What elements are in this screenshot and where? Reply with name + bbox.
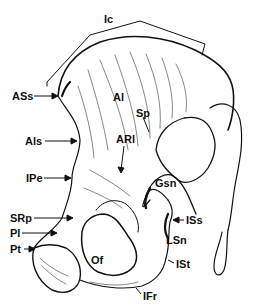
label-iliopectineal-eminence: IPe (26, 173, 43, 184)
label-sp: Sp (136, 108, 150, 119)
label-pl: Pl (10, 228, 20, 239)
label-ischial-tuberosity: ISt (176, 259, 190, 270)
label-lesser-sciatic-notch: LSn (166, 235, 187, 246)
label-arl: ARl (116, 134, 135, 145)
hip-bone-illustration (0, 0, 262, 308)
label-iliac-crest: Ic (104, 14, 113, 25)
label-greater-sciatic-notch: Gsn (155, 178, 176, 189)
label-anterior-superior-spine: ASs (12, 91, 33, 102)
label-anterior-inferior-spine: Als (25, 136, 42, 147)
label-srp: SRp (10, 213, 32, 224)
hip-bone-diagram: Ic ASs Al Sp ARl Als IPe Gsn SRp ISs Pl … (0, 0, 262, 308)
label-ischial-spine: ISs (186, 215, 203, 226)
label-ala: Al (113, 92, 124, 103)
label-obturator-foramen: Of (91, 255, 103, 266)
label-pubic-tubercle: Pt (10, 244, 21, 255)
label-ifr: IFr (143, 291, 157, 302)
